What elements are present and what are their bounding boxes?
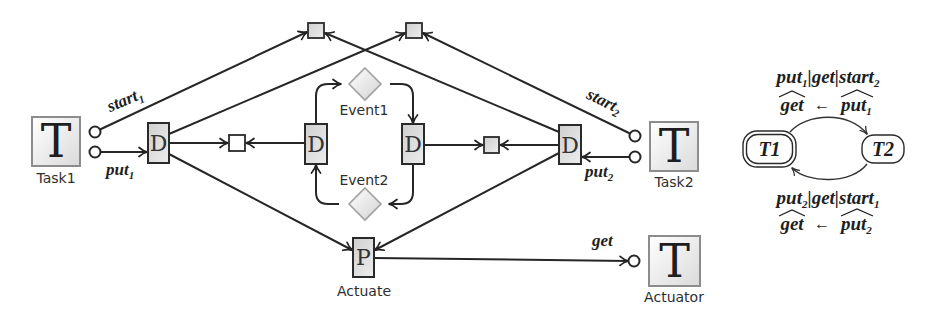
task1-glyph: T	[41, 114, 72, 168]
put1-label: put1	[104, 160, 134, 181]
t2-t1-trigger-a: put	[775, 187, 803, 208]
edge-p-to-get	[374, 258, 628, 261]
transition-arc-t1-to-t2	[790, 117, 867, 134]
top-square2	[406, 23, 422, 38]
t2-t1-update-lhs: get	[779, 213, 804, 234]
put2-label: put2	[583, 162, 614, 183]
right-square	[484, 137, 499, 153]
task1-label: Task1	[35, 170, 75, 186]
t1-t2-update-lhs: get	[779, 94, 804, 115]
start1-label-group: start1	[103, 84, 146, 118]
t1-t2-trigger-a: put	[775, 66, 803, 87]
d-node-2-glyph: D	[307, 132, 325, 157]
get-label: get	[591, 231, 614, 250]
t1-t2-trigger-c-sub: 2	[873, 77, 880, 89]
event1-diamond-icon	[349, 68, 381, 100]
task2-glyph: T	[659, 119, 690, 173]
put2-label-name: put	[583, 162, 609, 181]
d-node-4-glyph: D	[561, 133, 579, 158]
actuator-label: Actuator	[644, 289, 704, 305]
state-t2: T2	[862, 135, 904, 163]
edge-start1-to-top-square1	[100, 32, 307, 130]
t1-t2-update-rhs-name: put	[839, 94, 867, 115]
top-square1	[308, 23, 324, 38]
d-node-3: D	[402, 124, 424, 164]
p-node-glyph: P	[356, 245, 371, 270]
event1-label: Event1	[339, 102, 388, 118]
t2-t1-update-rhs-sub: 2	[865, 224, 872, 236]
actuator-glyph: T	[659, 234, 690, 288]
actuator-task: T Actuator	[644, 234, 704, 305]
edge-event1-to-d3	[390, 84, 413, 123]
task2: T Task2	[650, 119, 698, 190]
port-put2	[630, 152, 641, 163]
edge-d2-to-event1	[316, 84, 341, 124]
t1-t2-update-rhs-sub: 1	[866, 105, 872, 117]
t1-t2-trigger-c: start	[838, 66, 875, 87]
d-node-1: D	[148, 123, 169, 163]
put2-label-sub: 2	[607, 171, 614, 183]
d-node-1-glyph: D	[150, 131, 168, 156]
t2-t1-update-arrow: ←	[814, 215, 830, 232]
start1-label: start1	[103, 84, 146, 118]
d-node-3-glyph: D	[404, 132, 422, 157]
edges	[100, 32, 630, 261]
t2-t1-trigger-c: start	[838, 187, 875, 208]
t1-t2-update-rhs: put1	[839, 94, 872, 117]
t1-t2-trigger-mid: |get|	[807, 66, 839, 87]
task2-label: Task2	[653, 174, 693, 190]
edge-d3-to-event2	[389, 164, 413, 204]
d-node-2: D	[305, 124, 327, 164]
t1-t2-update-arrow: ←	[814, 96, 830, 113]
t1-t2-trigger: put1|get|start2	[775, 66, 880, 89]
event2-diamond-icon	[349, 188, 381, 220]
t2-t1-update-rhs-name: put	[839, 213, 867, 234]
left-square	[229, 135, 245, 151]
edge-event2-to-d2	[316, 165, 339, 204]
task-graph-figure: T Task1 T Task2 T Actuator D D D D P Act	[0, 0, 933, 317]
event2: Event2	[339, 172, 388, 220]
port-get	[629, 256, 640, 267]
edge-d1-to-p	[169, 154, 352, 250]
state-t1-label: T1	[758, 138, 780, 160]
port-start1	[90, 127, 101, 138]
port-start2	[630, 131, 641, 142]
t2-t1-trigger-mid: |get|	[807, 187, 839, 208]
event2-label: Event2	[339, 172, 388, 188]
transition-arc-t2-to-t1	[792, 164, 867, 180]
t2-t1-trigger: put2|get|start1	[775, 187, 880, 210]
state-t2-label: T2	[872, 138, 894, 160]
t2-t1-trigger-c-sub: 1	[874, 198, 880, 210]
port-put1	[90, 147, 101, 158]
d-node-4: D	[559, 125, 581, 164]
put1-label-sub: 1	[129, 169, 135, 181]
edge-d4-to-p	[375, 153, 559, 250]
state-t1-initial: T1	[743, 131, 796, 167]
event1: Event1	[339, 68, 388, 118]
t2-t1-update-rhs: put2	[839, 213, 872, 236]
automaton: put1|get|start2 get ← put1 T1 T2 put2|ge…	[743, 66, 904, 236]
put1-label-name: put	[104, 160, 130, 179]
actuate-label: Actuate	[337, 283, 391, 299]
task1: T Task1	[32, 114, 80, 186]
